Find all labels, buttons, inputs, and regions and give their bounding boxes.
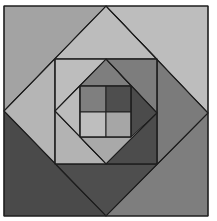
grid-cell-top-left <box>80 86 106 112</box>
grid-cell-bottom-left <box>80 112 106 137</box>
nested-squares-diagram <box>0 0 217 221</box>
grid-cell-bottom-right <box>106 112 131 137</box>
grid-cell-top-right <box>106 86 131 112</box>
diagram-canvas <box>0 0 217 221</box>
center-grid-cells <box>80 86 131 137</box>
